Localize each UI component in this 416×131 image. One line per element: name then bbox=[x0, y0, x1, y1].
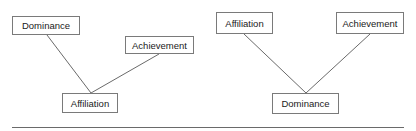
node-label: Dominance bbox=[281, 98, 329, 109]
edge-right-affiliation-dominance bbox=[244, 34, 306, 93]
right-achievement-node: Achievement bbox=[336, 12, 404, 34]
node-label: Dominance bbox=[22, 20, 70, 31]
edge-left-achievement-affiliation bbox=[91, 54, 159, 93]
right-dominance-node: Dominance bbox=[272, 93, 339, 114]
left-dominance-node: Dominance bbox=[12, 16, 80, 35]
edge-right-achievement-dominance bbox=[306, 34, 370, 93]
edge-left-dominance-affiliation bbox=[47, 35, 91, 93]
node-label: Achievement bbox=[132, 40, 187, 51]
node-label: Affiliation bbox=[71, 98, 109, 109]
node-label: Achievement bbox=[343, 18, 398, 29]
horizontal-rule bbox=[12, 127, 404, 128]
node-label: Affiliation bbox=[225, 18, 263, 29]
left-achievement-node: Achievement bbox=[125, 36, 194, 54]
right-affiliation-node: Affiliation bbox=[216, 12, 273, 34]
left-affiliation-node: Affiliation bbox=[62, 93, 118, 113]
